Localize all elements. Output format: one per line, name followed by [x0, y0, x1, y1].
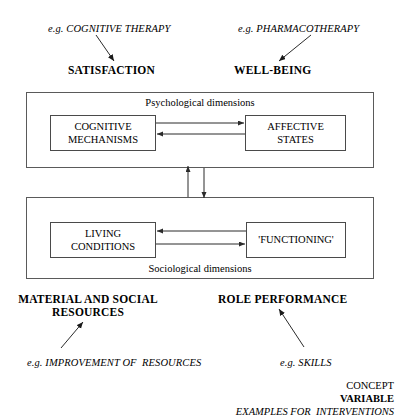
arrow-pharmacotherapy-to-well-being: [279, 35, 311, 61]
arrow-improvement-to-material-resources: [61, 322, 83, 348]
intervention-label-pharmacotherapy: e.g. PHARMACOTHERAPY: [238, 23, 359, 35]
variable-box-living-conditions: LIVING CONDITIONS: [50, 222, 156, 258]
psychological-dimensions-caption: Psychological dimensions: [27, 97, 373, 108]
sociological-dimensions-caption: Sociological dimensions: [27, 263, 373, 274]
legend-concept: CONCEPT: [346, 380, 394, 391]
intervention-label-improvement-of-resources: e.g. IMPROVEMENT OF RESOURCES: [27, 357, 201, 369]
concept-label-satisfaction: SATISFACTION: [68, 64, 155, 77]
variable-box-affective-states: AFFECTIVE STATES: [245, 115, 346, 151]
legend-examples-for-interventions: EXAMPLES FOR INTERVENTIONS: [236, 406, 394, 417]
concept-label-material-and-social-resources: MATERIAL AND SOCIAL RESOURCES: [8, 293, 168, 319]
concept-label-well-being: WELL-BEING: [234, 64, 311, 77]
variable-box-cognitive-mechanisms: COGNITIVE MECHANISMS: [50, 115, 156, 151]
arrow-cognitive-therapy-to-satisfaction: [96, 35, 114, 61]
variable-label-functioning: 'FUNCTIONING': [258, 233, 334, 246]
variable-label-living-conditions: LIVING CONDITIONS: [71, 227, 135, 253]
concept-diagram: e.g. COGNITIVE THERAPY e.g. PHARMACOTHER…: [0, 0, 398, 418]
intervention-label-cognitive-therapy: e.g. COGNITIVE THERAPY: [48, 23, 170, 35]
variable-label-affective-states: AFFECTIVE STATES: [267, 120, 324, 146]
intervention-label-skills: e.g. SKILLS: [280, 357, 332, 369]
variable-box-functioning: 'FUNCTIONING': [246, 222, 346, 258]
legend-variable: VARIABLE: [340, 393, 394, 404]
concept-label-role-performance: ROLE PERFORMANCE: [218, 293, 347, 306]
arrow-skills-to-role-performance: [279, 309, 304, 347]
variable-label-cognitive-mechanisms: COGNITIVE MECHANISMS: [68, 120, 138, 146]
